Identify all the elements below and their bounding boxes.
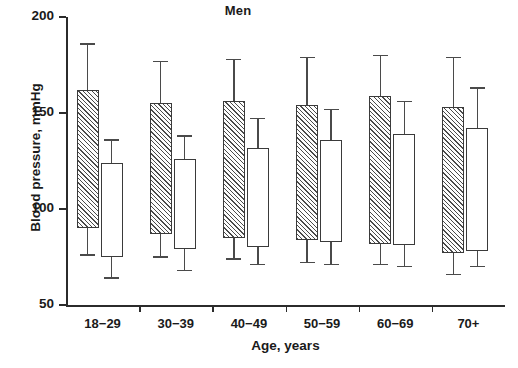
hatched-bar-3	[296, 105, 318, 239]
hatched-bar-1-upper-whisker	[160, 61, 161, 103]
y-tick-50	[59, 304, 66, 306]
x-tick-1	[139, 306, 140, 312]
hatched-bar-3-lower-cap	[300, 262, 315, 263]
hatched-bar-2-upper-whisker	[233, 59, 234, 101]
hatched-bar-4-lower-cap	[373, 264, 388, 265]
hatched-bar-0-lower-cap	[80, 254, 95, 255]
open-bar-3-upper-cap	[324, 109, 339, 110]
hatched-bar-4-upper-whisker	[380, 55, 381, 95]
hatched-bar-0-lower-whisker	[87, 228, 88, 255]
hatched-bar-5-lower-whisker	[453, 253, 454, 274]
open-bar-1-upper-whisker	[184, 136, 185, 159]
open-bar-0-upper-whisker	[111, 140, 112, 163]
open-bar-1-upper-cap	[177, 135, 192, 136]
hatched-bar-0	[77, 90, 99, 228]
open-bar-1-lower-whisker	[184, 249, 185, 270]
chart-title: Men	[0, 3, 518, 18]
open-bar-3-lower-whisker	[330, 242, 331, 265]
hatched-bar-4-lower-whisker	[380, 244, 381, 265]
open-bar-2	[247, 148, 269, 248]
open-bar-2-upper-cap	[250, 118, 265, 119]
hatched-bar-5	[442, 107, 464, 253]
open-bar-5-upper-whisker	[477, 88, 478, 128]
open-bar-3-lower-cap	[324, 264, 339, 265]
x-tick-2	[212, 306, 213, 312]
hatched-bar-0-upper-cap	[80, 43, 95, 44]
x-tick-4	[359, 306, 360, 312]
hatched-bar-1-lower-cap	[153, 256, 168, 257]
open-bar-1-lower-cap	[177, 270, 192, 271]
y-tick-label-50: 50	[8, 296, 54, 311]
open-bar-0-lower-cap	[104, 277, 119, 278]
open-bar-3	[320, 140, 342, 242]
open-bar-4-lower-cap	[397, 266, 412, 267]
open-bar-5	[466, 128, 488, 251]
hatched-bar-1-lower-whisker	[160, 234, 161, 257]
open-bar-2-lower-whisker	[257, 247, 258, 264]
hatched-bar-4-upper-cap	[373, 55, 388, 56]
hatched-bar-0-upper-whisker	[87, 44, 88, 90]
hatched-bar-2-lower-cap	[226, 258, 241, 259]
x-axis-title: Age, years	[66, 338, 505, 353]
hatched-bar-3-lower-whisker	[306, 240, 307, 263]
open-bar-4-upper-whisker	[404, 101, 405, 134]
y-axis-title: Blood pressure, mmHg	[28, 28, 43, 288]
x-tick-label-5: 70+	[425, 316, 511, 331]
hatched-bar-4	[369, 96, 391, 244]
open-bar-4-lower-whisker	[404, 245, 405, 266]
blood-pressure-chart: Men Blood pressure, mmHg 50100150200 18−…	[0, 0, 518, 368]
plot-area: 50100150200 18−2930−3940−4950−5960−6970+	[66, 17, 505, 305]
hatched-bar-5-upper-cap	[446, 57, 461, 58]
hatched-bar-2	[223, 101, 245, 237]
hatched-bar-2-lower-whisker	[233, 238, 234, 259]
y-tick-100	[59, 208, 66, 210]
hatched-bar-5-lower-cap	[446, 274, 461, 275]
open-bar-2-upper-whisker	[257, 119, 258, 148]
chart-title-text: Men	[225, 3, 252, 18]
y-axis-line	[66, 17, 68, 305]
hatched-bar-1	[150, 103, 172, 234]
open-bar-5-lower-cap	[470, 266, 485, 267]
open-bar-5-upper-cap	[470, 87, 485, 88]
hatched-bar-5-upper-whisker	[453, 57, 454, 107]
open-bar-4-upper-cap	[397, 101, 412, 102]
open-bar-1	[174, 159, 196, 249]
y-tick-label-100: 100	[8, 200, 54, 215]
x-tick-5	[432, 306, 433, 312]
hatched-bar-2-upper-cap	[226, 59, 241, 60]
open-bar-2-lower-cap	[250, 264, 265, 265]
hatched-bar-3-upper-cap	[300, 57, 315, 58]
open-bar-0-upper-cap	[104, 139, 119, 140]
y-tick-150	[59, 112, 66, 114]
open-bar-5-lower-whisker	[477, 251, 478, 266]
x-tick-3	[286, 306, 287, 312]
open-bar-4	[393, 134, 415, 245]
open-bar-0	[101, 163, 123, 257]
open-bar-3-upper-whisker	[330, 109, 331, 140]
y-tick-label-150: 150	[8, 104, 54, 119]
hatched-bar-1-upper-cap	[153, 61, 168, 62]
hatched-bar-3-upper-whisker	[306, 57, 307, 105]
open-bar-0-lower-whisker	[111, 257, 112, 278]
y-tick-200	[59, 16, 66, 18]
y-tick-label-200: 200	[8, 8, 54, 23]
